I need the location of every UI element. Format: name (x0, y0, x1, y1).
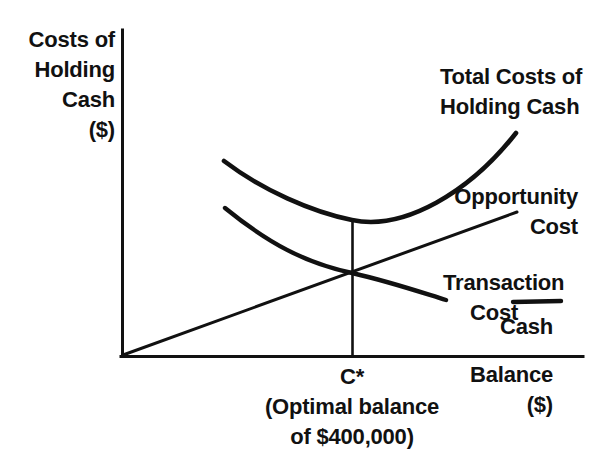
y-axis-title: Costs of Holding Cash ($) (29, 25, 115, 145)
optimum-annotation: C* (Optimal balance of $400,000) (265, 362, 439, 452)
opportunity-cost-label-line-1: Opportunity (454, 182, 578, 212)
total-cost-label-line-1: Total Costs of (440, 62, 582, 92)
cash-holding-costs-figure: Costs of Holding Cash ($) Total Costs of… (0, 0, 615, 470)
y-axis-title-line-1: Costs of (29, 25, 115, 55)
optimum-description-line-1: (Optimal balance (265, 392, 439, 422)
x-axis-title-cash: Cash (500, 312, 553, 342)
opportunity-cost-line-label: Opportunity Cost (454, 182, 578, 242)
x-axis-title-line-balance: Balance (470, 360, 553, 390)
optimum-description-line-2: of $400,000) (265, 422, 439, 452)
x-axis-title-line-units: ($) (470, 390, 553, 420)
x-axis-title-balance: Balance ($) (470, 360, 553, 420)
total-cost-label-line-2: Holding Cash (440, 92, 582, 122)
opportunity-cost-label-line-2: Cost (454, 212, 578, 242)
optimum-symbol: C* (265, 362, 439, 392)
transaction-cost-label-line-1: Transaction (443, 268, 564, 298)
total-cost-curve-label: Total Costs of Holding Cash (440, 62, 582, 122)
y-axis-title-line-3: Cash (29, 85, 115, 115)
y-axis-title-line-2: Holding (29, 55, 115, 85)
transaction-cost-curve (225, 208, 446, 300)
y-axis-title-line-4: ($) (29, 115, 115, 145)
